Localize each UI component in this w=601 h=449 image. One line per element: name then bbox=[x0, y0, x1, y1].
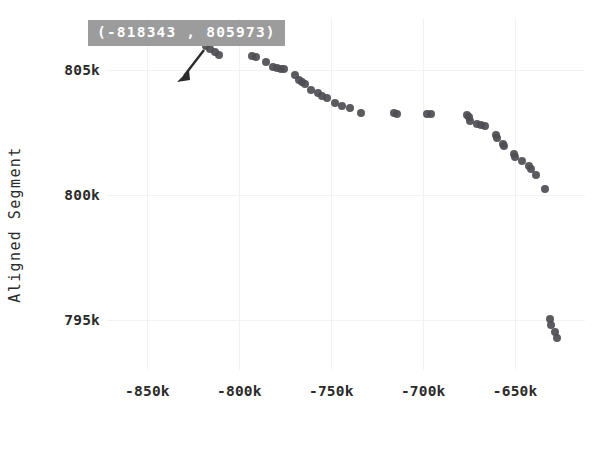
data-point[interactable] bbox=[357, 109, 365, 117]
data-point[interactable] bbox=[500, 142, 508, 150]
data-point[interactable] bbox=[481, 122, 489, 130]
data-point[interactable] bbox=[532, 171, 540, 179]
x-axis-tick-label: -800k bbox=[217, 383, 262, 399]
x-axis-tick-labels: -850k-800k-750k-700k-650k bbox=[0, 383, 601, 407]
point-tooltip: (-818343 , 805973) bbox=[88, 20, 285, 46]
plot-area bbox=[107, 18, 585, 370]
data-point[interactable] bbox=[323, 94, 331, 102]
y-axis-tick-label: 805k bbox=[64, 62, 100, 78]
x-axis-tick-label: -850k bbox=[125, 383, 170, 399]
y-axis-tick-labels: 805k800k795k bbox=[0, 0, 100, 449]
data-point[interactable] bbox=[541, 185, 549, 193]
data-point[interactable] bbox=[553, 334, 561, 342]
data-point[interactable] bbox=[427, 110, 435, 118]
y-axis-tick-label: 800k bbox=[64, 187, 100, 203]
gridline-horizontal bbox=[107, 320, 585, 321]
scatter-plot-figure: 805k800k795k -850k-800k-750k-700k-650k A… bbox=[0, 0, 601, 449]
data-point[interactable] bbox=[346, 104, 354, 112]
x-axis-title bbox=[0, 438, 601, 449]
data-point[interactable] bbox=[215, 51, 223, 59]
x-axis-tick-label: -750k bbox=[309, 383, 354, 399]
y-axis-tick-label: 795k bbox=[64, 312, 100, 328]
gridline-horizontal bbox=[107, 70, 585, 71]
data-point[interactable] bbox=[280, 65, 288, 73]
x-axis-tick-label: -650k bbox=[493, 383, 538, 399]
gridline-horizontal bbox=[107, 195, 585, 196]
x-axis-tick-label: -700k bbox=[401, 383, 446, 399]
data-point[interactable] bbox=[252, 53, 260, 61]
data-point[interactable] bbox=[393, 110, 401, 118]
